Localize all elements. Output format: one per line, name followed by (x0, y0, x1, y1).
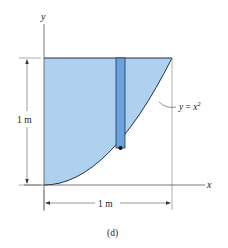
arrowhead-up-icon (25, 59, 28, 64)
differential-strip (116, 58, 125, 148)
curve-equation-label: y = x2 (178, 100, 201, 112)
curve-label-leader (159, 102, 176, 107)
area-diagram: y x 1 m 1 m y = x2 (d) (0, 0, 228, 248)
x-axis-label: x (206, 179, 212, 190)
figure-caption: (d) (107, 228, 118, 239)
arrowhead-down-icon (25, 179, 28, 184)
y-axis-label: y (40, 11, 46, 22)
arrowhead-left-icon (45, 201, 50, 204)
width-dimension-label: 1 m (98, 199, 113, 209)
shaded-region (44, 58, 172, 185)
height-dimension-label: 1 m (17, 115, 32, 125)
strip-point (119, 146, 123, 150)
arrowhead-right-icon (166, 201, 171, 204)
